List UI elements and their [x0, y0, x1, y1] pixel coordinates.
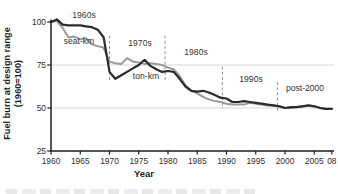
y-tick-label-100: 100: [32, 17, 46, 27]
decade-label-1990s: 1990s: [239, 74, 262, 84]
x-tick-label-1975: 1975: [129, 156, 148, 166]
fuel-burn-chart-figure: Fuel burn at design range (1960=100) 255…: [0, 0, 338, 194]
series-line-ton-km: [51, 19, 332, 109]
series-label-ton-km: ton-km: [133, 71, 159, 81]
x-tick-label-1990: 1990: [217, 156, 236, 166]
decade-label-1980s: 1980s: [184, 47, 207, 57]
y-tick-label-25: 25: [37, 146, 47, 156]
x-tick-label-2008: 08: [327, 156, 337, 166]
y-tick-label-75: 75: [37, 60, 47, 70]
x-tick-label-2000: 2000: [276, 156, 295, 166]
series-label-seat-km: seat-km: [64, 36, 95, 46]
x-tick-label-1970: 1970: [100, 156, 119, 166]
x-tick-label-1965: 1965: [71, 156, 90, 166]
caption-fragment: [6, 189, 258, 194]
decade-label-1960s: 1960s: [72, 10, 95, 20]
x-axis-title: Year: [0, 168, 338, 179]
x-tick-label-1980: 1980: [159, 156, 178, 166]
x-tick-label-2005: 2005: [305, 156, 324, 166]
x-tick-label-1995: 1995: [246, 156, 265, 166]
x-tick-label-1960: 1960: [42, 156, 61, 166]
y-tick-label-50: 50: [37, 103, 47, 113]
x-tick-label-1985: 1985: [188, 156, 207, 166]
decade-label-post-2000: post-2000: [286, 83, 324, 93]
decade-label-1970s: 1970s: [128, 38, 151, 48]
